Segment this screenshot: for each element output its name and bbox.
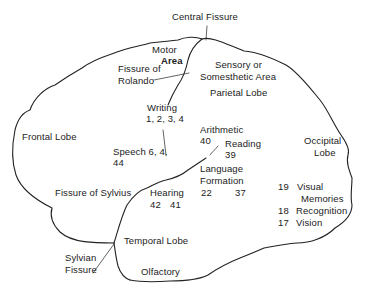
label-formation: Formation xyxy=(200,175,244,187)
label-hearing: Hearing xyxy=(150,187,184,199)
label-vision: Vision xyxy=(296,217,322,229)
label-visual-area-19: 19 xyxy=(278,181,289,193)
label-sylvian-fissure: Fissure xyxy=(65,264,97,276)
label-frontal-lobe: Frontal Lobe xyxy=(22,131,77,143)
label-fissure-of-sylvius: Fissure of Sylvius xyxy=(55,187,131,199)
label-hearing-area-41: 41 xyxy=(170,199,181,211)
label-area: Area xyxy=(161,55,183,67)
label-recognition-area-18: 18 xyxy=(278,205,289,217)
label-occipital: Occipital xyxy=(304,135,341,147)
label-occipital-lobe: Lobe xyxy=(314,147,336,159)
label-arithmetic-area: 40 xyxy=(200,135,211,147)
label-recognition: Recognition xyxy=(296,205,347,217)
label-hearing-area-42: 42 xyxy=(150,199,161,211)
label-rolando: Rolando xyxy=(118,75,154,87)
label-central-fissure: Central Fissure xyxy=(172,11,238,23)
label-writing-areas: 1, 2, 3, 4 xyxy=(146,113,184,125)
label-language-area-22: 22 xyxy=(201,187,212,199)
label-language: Language xyxy=(200,163,243,175)
label-sensory-or: Sensory or xyxy=(215,59,262,71)
reading-pointer xyxy=(210,146,218,155)
label-language-area-37: 37 xyxy=(235,187,246,199)
label-olfactory: Olfactory xyxy=(141,266,180,278)
label-parietal-lobe: Parietal Lobe xyxy=(210,87,267,99)
label-speech-area: 44 xyxy=(113,157,124,169)
temporal-outline xyxy=(114,243,130,280)
label-visual: Visual xyxy=(297,181,323,193)
label-fissure-of: Fissure of xyxy=(118,63,161,75)
label-reading-area: 39 xyxy=(225,149,236,161)
label-temporal-lobe: Temporal Lobe xyxy=(124,235,188,247)
label-sylvian: Sylvian xyxy=(65,252,96,264)
label-vision-area-17: 17 xyxy=(278,217,289,229)
label-memories: Memories xyxy=(301,193,344,205)
label-somesthetic-area: Somesthetic Area xyxy=(200,71,276,83)
